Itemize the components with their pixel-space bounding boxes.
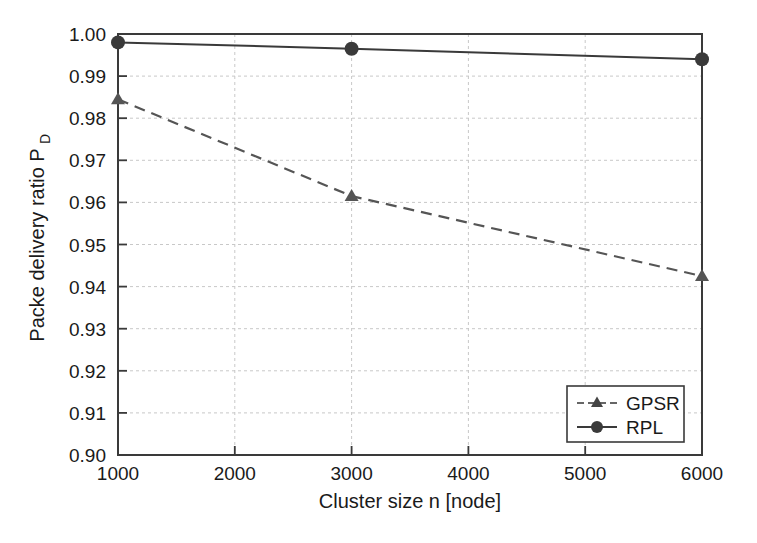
chart-canvas[interactable]: 0.900.910.920.930.940.950.960.970.980.99…: [0, 0, 757, 543]
x-axis-tick-label: 4000: [447, 463, 489, 484]
x-axis-tick-label: 6000: [681, 463, 723, 484]
y-axis-tick-label: 0.92: [69, 361, 106, 382]
legend[interactable]: GPSR RPL: [567, 386, 684, 442]
data-point-marker-circle[interactable]: [111, 35, 125, 49]
y-axis-tick-label: 0.94: [69, 277, 106, 298]
data-point-marker-circle[interactable]: [345, 42, 359, 56]
y-axis-tick-label: 0.95: [69, 235, 106, 256]
y-axis-tick-label: 0.99: [69, 66, 106, 87]
x-axis-title: Cluster size n [node]: [319, 490, 501, 512]
y-axis-tick-label: 0.97: [69, 150, 106, 171]
circle-icon: [591, 421, 603, 433]
y-axis-title-subscript: D: [37, 134, 53, 144]
y-axis-tick-label: 0.93: [69, 319, 106, 340]
x-axis-tick-label: 3000: [330, 463, 372, 484]
data-point-marker-circle[interactable]: [695, 52, 709, 66]
x-axis-tick-label: 2000: [214, 463, 256, 484]
y-axis-title: Packe delivery ratio P: [26, 148, 48, 341]
y-axis-title-group: Packe delivery ratio P D: [26, 134, 53, 342]
legend-label-rpl: RPL: [626, 417, 663, 438]
y-axis-tick-label: 0.98: [69, 108, 106, 129]
x-axis-tick-label: 1000: [97, 463, 139, 484]
y-axis-tick-label: 1.00: [69, 24, 106, 45]
figure-container: 0.900.910.920.930.940.950.960.970.980.99…: [0, 0, 757, 543]
legend-label-gpsr: GPSR: [626, 393, 680, 414]
x-axis-tick-label: 5000: [564, 463, 606, 484]
y-axis-tick-label: 0.96: [69, 192, 106, 213]
y-axis-tick-label: 0.91: [69, 403, 106, 424]
